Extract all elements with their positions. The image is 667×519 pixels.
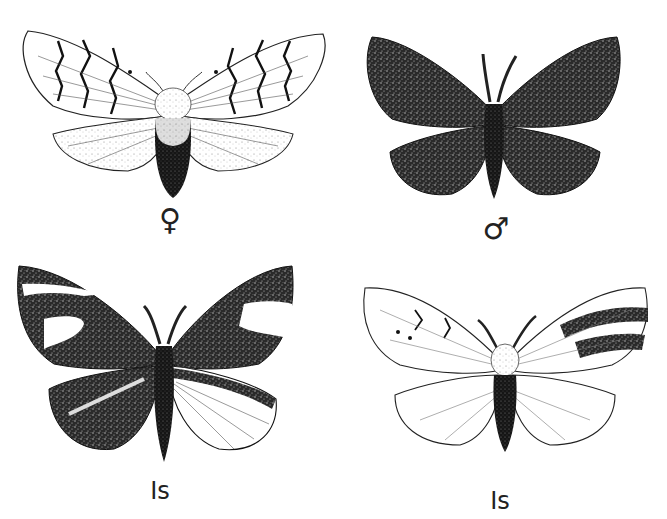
moth-male-illustration [362,34,624,204]
moth-intersex-1-illustration [14,264,296,464]
label-intersex-2: Is [480,488,520,514]
moth-female-illustration [18,26,330,201]
label-intersex-1: Is [140,478,180,504]
label-male-symbol: ♂ [480,214,512,244]
moth-intersex-2-illustration [360,280,652,455]
label-female-symbol: ♀ [155,205,185,235]
